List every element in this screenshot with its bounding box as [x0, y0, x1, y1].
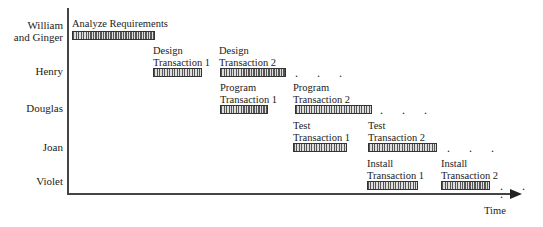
person-line-1: William	[3, 19, 63, 31]
continuation-dots: . . .	[295, 69, 350, 77]
task-label-line-1: Test	[368, 120, 425, 132]
task-label-install-t1: Install Transaction 1	[367, 158, 424, 182]
time-axis-label: Time	[484, 205, 506, 216]
person-line-2: and Ginger	[3, 31, 63, 43]
task-label-line-1: Program	[220, 82, 277, 94]
task-label-test-t2: Test Transaction 2	[368, 120, 425, 144]
continuation-dots: . . .	[500, 182, 543, 198]
task-bar-analyze-requirements	[72, 31, 155, 40]
continuation-dots: . . .	[380, 106, 435, 114]
task-label-line-1: Program	[293, 82, 350, 94]
task-bar-design-t2	[220, 68, 286, 77]
task-label-analyze-requirements: Analyze Requirements	[72, 18, 168, 30]
task-label-line-1: Design	[153, 45, 210, 57]
task-label-design-t2: Design Transaction 2	[219, 45, 276, 69]
person-label-douglas: Douglas	[3, 102, 63, 114]
task-label-line-1: Design	[219, 45, 276, 57]
task-label-line-1: Test	[293, 120, 350, 132]
task-bar-design-t1	[153, 68, 202, 77]
person-label-violet: Violet	[3, 175, 63, 187]
task-label-line-1: Install	[367, 158, 424, 170]
person-label-joan: Joan	[3, 141, 63, 153]
task-label-test-t1: Test Transaction 1	[293, 120, 350, 144]
task-bar-program-t2	[295, 105, 372, 114]
person-label-henry: Henry	[3, 65, 63, 77]
task-label-program-t1: Program Transaction 1	[220, 82, 277, 106]
task-label-line-1: Install	[441, 158, 498, 170]
task-bar-test-t2	[368, 143, 437, 152]
task-bar-test-t1	[293, 143, 347, 152]
task-label-design-t1: Design Transaction 1	[153, 45, 210, 69]
task-label-install-t2: Install Transaction 2	[441, 158, 498, 182]
task-bar-install-t1	[367, 181, 418, 190]
person-label-william-ginger: William and Ginger	[3, 19, 63, 43]
task-bar-program-t1	[220, 105, 268, 114]
task-label-program-t2: Program Transaction 2	[293, 82, 350, 106]
task-bar-install-t2	[441, 181, 490, 190]
continuation-dots: . . .	[447, 144, 502, 152]
y-axis	[67, 8, 69, 195]
time-axis	[67, 193, 513, 195]
